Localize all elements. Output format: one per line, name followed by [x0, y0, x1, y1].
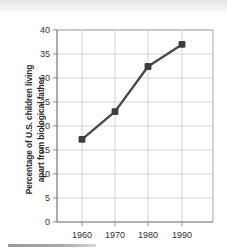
x-tick-labels: 1960 1970 1980 1990: [72, 230, 192, 240]
scan-artifact-band: [0, 0, 227, 13]
data-point-1980: [145, 63, 152, 70]
x-tick-label-1990: 1990: [172, 230, 192, 240]
x-tick-label-1970: 1970: [105, 230, 125, 240]
bottom-rule-divider: [8, 244, 96, 247]
data-point-1990: [179, 41, 186, 48]
y-axis-label-line-2: apart from biological father: [35, 30, 47, 230]
x-tick-label-1980: 1980: [138, 230, 158, 240]
chart-figure: Percentage of U.S. children living apart…: [0, 0, 227, 252]
data-point-1960: [79, 136, 86, 143]
y-axis-label-line-1: Percentage of U.S. children living: [24, 30, 36, 230]
x-tick-label-1960: 1960: [72, 230, 92, 240]
x-axis-ticks: [82, 222, 182, 226]
y-axis-label: Percentage of U.S. children living apart…: [24, 30, 47, 230]
data-point-1970: [112, 108, 119, 115]
